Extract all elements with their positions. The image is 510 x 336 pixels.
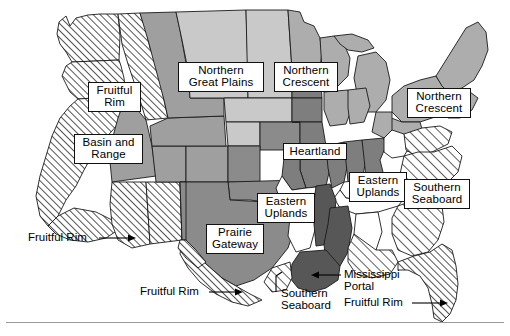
label-fruitful-rim-northwest: Fruitful Rim bbox=[88, 82, 141, 112]
callout-fruitful-rim-pacific: Fruitful Rim bbox=[28, 231, 87, 243]
region-fruitful-rim-newmexico bbox=[146, 182, 182, 244]
label-northern-crescent-west: Northern Crescent bbox=[274, 62, 338, 92]
region-fruitful-rim-florida bbox=[398, 244, 458, 322]
label-prairie-gateway: Prairie Gateway bbox=[206, 224, 264, 254]
region-basin-and-range-utah bbox=[152, 146, 186, 182]
region-basin-and-range-colorado bbox=[186, 146, 228, 182]
label-heartland: Heartland bbox=[283, 143, 347, 160]
callout-fruitful-rim-florida: Fruitful Rim bbox=[344, 296, 403, 308]
label-eastern-uplands-east: Eastern Uplands bbox=[349, 172, 407, 202]
farm-resource-regions-map: Fruitful Rim Northern Great Plains North… bbox=[0, 0, 510, 336]
region-prairie-gateway-colorado-e bbox=[228, 146, 260, 182]
region-northern-crescent-indiana-n bbox=[348, 88, 370, 124]
callout-mississippi-portal: Mississippi Portal bbox=[344, 268, 400, 293]
region-northern-crescent-minnesota bbox=[288, 10, 322, 70]
region-fruitful-rim-washington bbox=[57, 14, 120, 62]
region-northern-crescent-newengland bbox=[436, 22, 488, 92]
region-northern-great-plains-kansas-w bbox=[226, 122, 260, 146]
region-basin-and-range-wyoming bbox=[150, 116, 226, 146]
label-northern-great-plains: Northern Great Plains bbox=[178, 62, 264, 92]
us-map-graphic bbox=[0, 0, 510, 336]
label-basin-and-range: Basin and Range bbox=[74, 134, 143, 164]
label-northern-crescent-east: Northern Crescent bbox=[407, 88, 471, 118]
region-heartland-nebraska-e bbox=[292, 98, 322, 122]
label-southern-seaboard-east: Southern Seaboard bbox=[404, 179, 470, 209]
region-northern-great-plains-nebraska-w bbox=[224, 98, 292, 122]
callout-southern-seaboard-gulf: Southern Seaboard bbox=[281, 287, 331, 312]
label-eastern-uplands-west: Eastern Uplands bbox=[257, 193, 315, 223]
bottom-divider-rule bbox=[6, 322, 504, 323]
callout-fruitful-rim-southwest: Fruitful Rim bbox=[140, 285, 199, 297]
